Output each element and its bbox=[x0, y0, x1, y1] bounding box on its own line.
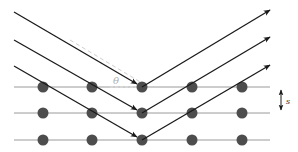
atom-dot bbox=[38, 135, 49, 146]
atom-dot bbox=[237, 108, 248, 119]
incoming-ray-arrow bbox=[14, 12, 137, 84]
spacing-indicator: s bbox=[281, 90, 290, 110]
outgoing-rays bbox=[142, 10, 270, 140]
spacing-label: s bbox=[286, 97, 290, 106]
atom-dot bbox=[187, 135, 198, 146]
atom-dot bbox=[237, 135, 248, 146]
atom-dot bbox=[38, 108, 49, 119]
outgoing-ray-arrow bbox=[142, 65, 270, 140]
bragg-diffraction-diagram: θ s bbox=[0, 0, 298, 152]
angle-label: θ bbox=[113, 75, 119, 86]
atom-dot bbox=[87, 135, 98, 146]
